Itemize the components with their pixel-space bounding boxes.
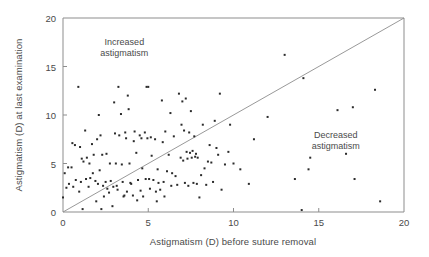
scatter-point [176,184,178,186]
scatter-point [88,186,90,188]
scatter-point [188,131,190,133]
scatter-point [195,153,197,155]
scatter-point [71,166,73,168]
scatter-point [193,135,195,137]
scatter-point [137,179,139,181]
scatter-point [224,163,226,165]
scatter-point [140,137,142,139]
scatter-point [354,178,356,180]
decreased-astigmatism-annotation: Decreased astigmatism [312,130,360,151]
scatter-point [126,191,128,193]
scatter-point [267,116,269,118]
scatter-point [148,178,150,180]
scatter-point [163,195,165,197]
scatter-point [352,106,354,108]
x-tick-label: 5 [146,217,151,228]
scatter-point [189,152,191,154]
scatter-point [205,184,207,186]
scatter-point [180,157,182,159]
scatter-point [198,196,200,198]
scatter-point [151,155,153,157]
decreased-astigmatism-line2: astigmatism [312,141,360,151]
scatter-point [99,169,101,171]
increased-astigmatism-line1: Increased [105,37,145,47]
scatter-point [239,168,241,170]
scatter-point [129,163,131,165]
scatter-point [227,151,229,153]
scatter-point [110,180,112,182]
scatter-point [190,110,192,112]
y-tick-label: 5 [51,159,56,170]
scatter-point [301,209,303,211]
x-axis-title: Astigmatism (D) before suture removal [150,236,316,247]
scatter-point [64,172,66,174]
scatter-point [149,188,151,190]
decreased-astigmatism-line1: Decreased [314,130,358,140]
scatter-point [92,172,94,174]
scatter-point [125,137,127,139]
scatter-point [166,170,168,172]
scatter-point [229,124,231,126]
scatter-point [121,163,123,165]
scatter-point [186,151,188,153]
scatter-point [111,205,113,207]
scatter-point [88,163,90,165]
scatter-point [118,134,120,136]
increased-astigmatism-annotation: Increased astigmatism [100,37,148,58]
scatter-point [75,179,77,181]
scatter-point [192,150,194,152]
scatter-point [207,161,209,163]
scatter-point [214,120,216,122]
scatter-point [97,183,99,185]
scatter-point [65,187,67,189]
scatter-point [133,140,135,142]
scatter-point [171,172,173,174]
scatter-point [124,131,126,133]
scatter-point [181,124,183,126]
scatter-point [134,130,136,132]
scatter-point [115,163,117,165]
scatter-point [169,112,171,114]
scatter-point [84,130,86,132]
scatter-point [139,134,141,136]
scatter-point [123,195,125,197]
scatter-point [197,157,199,159]
scatter-point [212,181,214,183]
scatter-point [181,100,183,102]
scatter-point [147,86,149,88]
scatter-point [102,185,104,187]
scatter-point [132,195,134,197]
scatter-point [168,154,170,156]
scatter-point [219,93,221,95]
y-tick-label: 0 [51,207,56,218]
scatter-point [117,86,119,88]
scatter-point [81,158,83,160]
scatter-point [308,168,310,170]
scatter-point [345,153,347,155]
scatter-point [80,181,82,183]
scatter-point [109,163,111,165]
x-tick-label: 0 [60,217,65,228]
scatter-point [91,143,93,145]
scatter-point [215,147,217,149]
y-tick-label: 10 [45,110,56,121]
scatter-point [117,189,119,191]
scatter-point [67,166,69,168]
scatter-point [105,153,107,155]
scatter-point [82,208,84,210]
scatter-point [191,157,193,159]
scatter-point [140,190,142,192]
scatter-point [113,101,115,103]
scatter-point [163,181,165,183]
scatter-point [204,167,206,169]
scatter-point [103,195,105,197]
scatter-point [187,185,189,187]
scatter-point [112,186,114,188]
scatter-plot-figure: Astigmatism (D) at last examination Asti… [0,0,429,257]
scatter-point [142,195,144,197]
scatter-point [145,178,147,180]
scatter-point [294,178,296,180]
scatter-point [178,93,180,95]
scatter-point [162,141,164,143]
scatter-point [152,179,154,181]
